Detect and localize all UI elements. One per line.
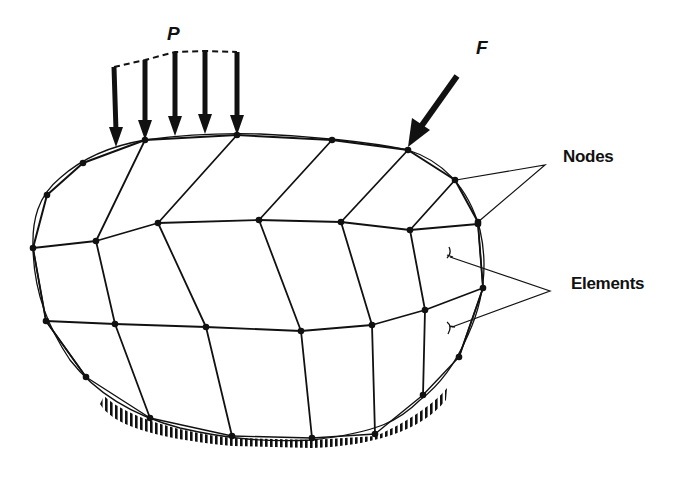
point-force-arrow	[408, 76, 457, 147]
mesh-boundary-edge	[423, 357, 459, 395]
mesh-edge	[206, 327, 232, 436]
load-p-label: P	[167, 23, 180, 44]
mesh-edge	[33, 241, 96, 248]
mesh-node	[309, 435, 316, 442]
mesh-node	[480, 285, 487, 292]
mesh-edge	[96, 241, 115, 324]
mesh-edge	[259, 140, 332, 220]
nodes-callout	[456, 165, 545, 222]
load-arrow	[198, 51, 212, 134]
mesh-boundary-edge	[332, 140, 408, 150]
mesh-edge	[115, 324, 206, 327]
mesh-node	[30, 245, 37, 252]
mesh-lines	[33, 135, 483, 438]
load-arrow	[138, 60, 152, 140]
mesh-node	[112, 321, 119, 328]
load-arrow	[109, 67, 123, 147]
fem-diagram: P F Nodes Elements	[0, 0, 686, 496]
mesh-node	[338, 219, 345, 226]
elements-callout	[447, 247, 550, 334]
mesh-node	[405, 147, 412, 154]
mesh-node	[203, 324, 210, 331]
mesh-nodes	[30, 132, 487, 442]
mesh-edge	[259, 220, 301, 331]
mesh-node	[420, 392, 427, 399]
mesh-edge	[423, 310, 425, 395]
mesh-edge	[206, 327, 301, 331]
mesh-edge	[301, 325, 372, 331]
mesh-boundary-edge	[33, 248, 46, 321]
mesh-node	[155, 220, 162, 227]
mesh-edge	[158, 220, 259, 223]
mesh-edge	[301, 331, 312, 438]
mesh-edge	[158, 223, 206, 327]
mesh-edge	[341, 222, 372, 325]
mesh-edge	[341, 150, 408, 222]
element-marker-icon	[447, 247, 453, 258]
element-marker-icon	[447, 322, 455, 334]
mesh-boundary-edge	[47, 163, 83, 195]
mesh-node	[147, 415, 154, 422]
nodes-label: Nodes	[563, 147, 613, 166]
mesh-edge	[425, 288, 483, 310]
mesh-node	[329, 137, 336, 144]
mesh-node	[44, 192, 51, 199]
mesh-boundary-edge	[232, 436, 312, 438]
mesh-edge	[259, 220, 341, 222]
body-boundary	[33, 134, 484, 441]
mesh-edge	[410, 180, 455, 230]
load-arrow	[230, 52, 244, 135]
force-f-label: F	[476, 37, 489, 58]
distributed-load	[109, 51, 244, 147]
mesh-edge	[410, 224, 478, 230]
mesh-edge	[158, 135, 237, 223]
mesh-node	[229, 433, 236, 440]
mesh-node	[372, 431, 379, 438]
mesh-edge	[96, 223, 158, 241]
mesh-node	[456, 354, 463, 361]
mesh-node	[422, 307, 429, 314]
load-arrow	[168, 52, 182, 136]
mesh-boundary-edge	[46, 321, 86, 377]
mesh-node	[43, 318, 50, 325]
elements-label: Elements	[571, 274, 644, 293]
body-outline	[33, 134, 484, 441]
mesh-edge	[46, 321, 115, 324]
mesh-node	[256, 217, 263, 224]
mesh-boundary-edge	[455, 180, 478, 222]
mesh-edge	[372, 310, 425, 325]
mesh-edge	[372, 325, 375, 434]
mesh-node	[93, 238, 100, 245]
mesh-edge	[410, 230, 425, 310]
mesh-node	[407, 227, 414, 234]
mesh-node	[80, 160, 87, 167]
mesh-boundary-edge	[408, 150, 455, 180]
mesh-edge	[341, 222, 410, 230]
mesh-node	[298, 328, 305, 335]
mesh-node	[369, 322, 376, 329]
mesh-node	[83, 374, 90, 381]
